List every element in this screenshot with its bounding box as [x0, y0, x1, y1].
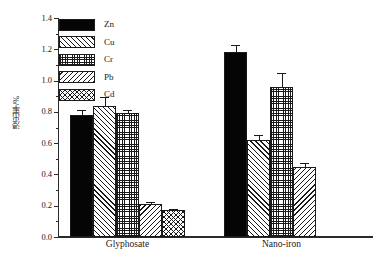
bar-nano-iron-cr	[270, 87, 293, 237]
bar-glyphosate-cu	[93, 106, 116, 237]
bar-nano-iron-cd	[316, 236, 339, 238]
legend-item-pb: Pb	[59, 70, 115, 85]
bar-glyphosate-zn	[70, 115, 93, 237]
legend-item-zn: Zn	[59, 17, 115, 32]
bar-glyphosate-cr	[116, 113, 139, 237]
error-bar-cap	[123, 110, 132, 111]
y-tick-label: 0.4	[41, 170, 52, 179]
error-bar-cap	[169, 209, 178, 210]
legend-swatch-zn	[59, 19, 95, 31]
y-tick-label: 0.8	[41, 107, 52, 116]
legend-label: Zn	[104, 20, 114, 29]
y-tick-major	[54, 237, 58, 238]
x-axis-label-glyphosate: Glyphosate	[78, 240, 178, 250]
bar-nano-iron-pb	[293, 167, 316, 237]
error-bar-cap	[77, 110, 86, 111]
legend-label: Cr	[104, 55, 113, 64]
chart-legend: ZnCuCrPbCd	[59, 17, 115, 105]
legend-swatch-cd	[59, 89, 95, 101]
legend-item-cr: Cr	[59, 52, 115, 67]
y-tick-label: 1.0	[41, 76, 52, 85]
y-tick-label: 1.2	[41, 45, 52, 54]
legend-item-cu: Cu	[59, 35, 115, 50]
legend-swatch-pb	[59, 71, 95, 83]
bar-chart-figure: 浸出率/% 0.00.20.40.60.81.01.21.4 Glyphosat…	[0, 0, 387, 266]
error-bar	[236, 45, 237, 52]
legend-swatch-cu	[59, 36, 95, 48]
legend-item-cd: Cd	[59, 87, 115, 102]
y-axis-label: 浸出率/%	[12, 96, 24, 129]
legend-label: Cd	[104, 90, 115, 99]
y-tick-label: 0.2	[41, 201, 52, 210]
error-bar-cap	[254, 135, 263, 136]
error-bar-cap	[231, 45, 240, 46]
x-axis-label-nano-iron: Nano-iron	[232, 240, 332, 250]
legend-label: Cu	[104, 38, 115, 47]
y-tick-label: 1.4	[41, 14, 52, 23]
error-bar-cap	[277, 73, 286, 74]
bar-nano-iron-cu	[247, 140, 270, 237]
legend-label: Pb	[104, 73, 114, 82]
bar-glyphosate-cd	[162, 210, 185, 237]
legend-swatch-cr	[59, 54, 95, 66]
y-tick-label: 0.0	[41, 233, 52, 242]
bar-glyphosate-pb	[139, 204, 162, 237]
bar-nano-iron-zn	[224, 52, 247, 237]
error-bar-cap	[146, 202, 155, 203]
error-bar	[282, 73, 283, 87]
error-bar-cap	[300, 163, 309, 164]
y-tick-label: 0.6	[41, 139, 52, 148]
